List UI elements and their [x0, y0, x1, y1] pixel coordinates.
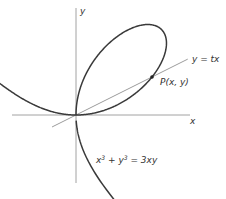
x-axis-label: x	[189, 116, 196, 126]
line-label: y = tx	[191, 54, 220, 64]
line-y-equals-tx	[52, 59, 188, 127]
folium-diagram: y x y = tx P(x, y) x3 + y3 = 3xy	[0, 0, 226, 199]
equation-label: x3 + y3 = 3xy	[95, 154, 158, 165]
y-axis-label: y	[79, 6, 86, 16]
point-p	[150, 75, 154, 79]
point-label: P(x, y)	[160, 77, 189, 87]
